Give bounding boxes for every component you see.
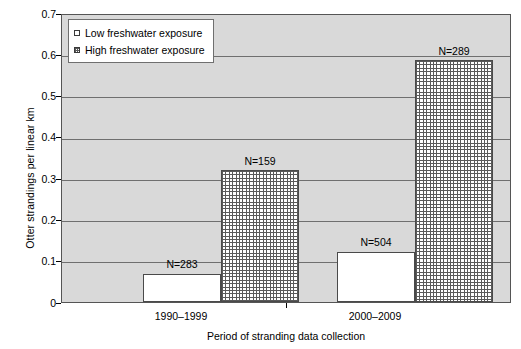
n-label-low-2000-2009: N=504: [360, 236, 391, 248]
bar-low-2000-2009: [337, 252, 415, 302]
legend-item-high: High freshwater exposure: [74, 41, 205, 58]
legend-item-low: Low freshwater exposure: [74, 24, 205, 41]
y-tick-label-0: 0: [26, 298, 56, 309]
n-label-high-1990-1999: N=159: [244, 155, 275, 167]
y-tick-mark-0: [56, 303, 61, 304]
crosshatch-square-marker-icon: [74, 47, 80, 53]
y-tick-label-0.6: 0.6: [26, 50, 56, 61]
x-tick-label-2000-2009: 2000–2009: [349, 310, 402, 322]
n-label-high-2000-2009: N=289: [438, 45, 469, 57]
bar-high-2000-2009: [415, 60, 493, 302]
bar-low-1990-1999: [143, 274, 221, 302]
legend: Low freshwater exposure High freshwater …: [68, 19, 214, 63]
y-tick-label-0.1: 0.1: [26, 256, 56, 267]
x-axis-title: Period of stranding data collection: [61, 330, 511, 342]
legend-label-high: High freshwater exposure: [85, 44, 205, 56]
y-tick-label-0.4: 0.4: [26, 132, 56, 143]
open-square-marker-icon: [74, 30, 80, 36]
y-tick-label-0.2: 0.2: [26, 215, 56, 226]
chart-figure: Otter strandings per linear km 0.7 0.6 0…: [0, 0, 521, 349]
y-tick-label-0.5: 0.5: [26, 91, 56, 102]
n-label-low-1990-1999: N=283: [166, 258, 197, 270]
x-tick-label-1990-1999: 1990–1999: [155, 310, 208, 322]
bar-high-1990-1999: [221, 170, 299, 302]
plot-area: N=283 N=159 N=504 N=289 Low freshwater e…: [61, 14, 511, 303]
x-tick-mark-center: [286, 303, 287, 308]
plot-inner: N=283 N=159 N=504 N=289 Low freshwater e…: [62, 15, 510, 302]
y-axis-ticks: 0.7 0.6 0.5 0.4 0.3 0.2 0.1 0: [22, 0, 56, 349]
legend-label-low: Low freshwater exposure: [85, 27, 202, 39]
y-tick-label-0.3: 0.3: [26, 174, 56, 185]
y-tick-label-0.7: 0.7: [26, 9, 56, 20]
